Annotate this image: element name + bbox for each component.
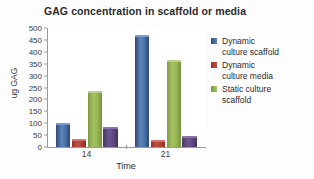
x-tick-label: 14	[82, 149, 91, 159]
bar	[151, 140, 165, 147]
x-tick-separator	[126, 145, 127, 149]
bar-body	[182, 138, 196, 147]
bar	[72, 139, 86, 147]
y-tick-label: 150	[29, 107, 42, 116]
y-tick-label: 100	[29, 119, 42, 128]
chart-container: GAG concentration in scaffold or media u…	[0, 0, 314, 179]
bar-body	[135, 37, 149, 147]
y-tick-label: 200	[29, 95, 42, 104]
bar	[103, 127, 117, 147]
bar	[167, 60, 181, 147]
y-tick-label: 450	[29, 35, 42, 44]
y-tick-label: 0	[38, 143, 42, 152]
legend-item-label: Static culture scaffold	[222, 84, 314, 105]
chart-title: GAG concentration in scaffold or media	[0, 5, 290, 17]
plot-area	[47, 28, 206, 148]
legend-swatch-icon	[211, 38, 217, 44]
x-tick-label: 21	[161, 149, 170, 159]
bar	[88, 91, 102, 147]
bar	[56, 123, 70, 147]
bar-body	[72, 141, 86, 147]
bar-body	[167, 62, 181, 147]
y-tick-label: 400	[29, 47, 42, 56]
legend-swatch-icon	[211, 86, 217, 92]
y-axis-ticks: 050100150200250300350400450500	[0, 28, 47, 147]
legend-swatch-icon	[211, 62, 217, 68]
chart-legend: Dynamic culture scaffoldDynamic culture …	[211, 36, 314, 108]
legend-item[interactable]: Static culture scaffold	[211, 84, 314, 105]
legend-item[interactable]: Dynamic culture scaffold	[211, 36, 314, 57]
x-axis-title: Time	[47, 161, 205, 171]
y-tick-label: 500	[29, 24, 42, 33]
bar	[135, 35, 149, 147]
y-tick-label: 300	[29, 71, 42, 80]
legend-item-label: Dynamic culture media	[222, 60, 314, 81]
y-tick-label: 250	[29, 83, 42, 92]
bar-body	[56, 125, 70, 147]
legend-item-label: Dynamic culture scaffold	[222, 36, 314, 57]
bar-body	[88, 93, 102, 147]
y-tick-label: 50	[33, 131, 42, 140]
legend-item[interactable]: Dynamic culture media	[211, 60, 314, 81]
y-tick-label: 350	[29, 59, 42, 68]
bar-body	[103, 129, 117, 147]
bar-body	[151, 142, 165, 147]
bar	[182, 136, 196, 147]
